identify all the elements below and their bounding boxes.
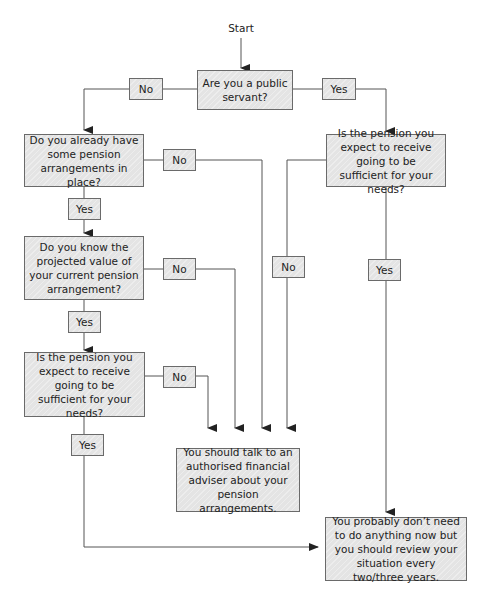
node-public-servant: Are you a public servant? [197,70,293,110]
edge-label-know-yes: Yes [68,311,101,333]
node-have-arrangements: Do you already have some pension arrange… [24,134,144,187]
edge-label-public-no: No [129,78,163,100]
node-outcome-adviser: You should talk to an authorised financi… [176,448,300,512]
node-sufficient-right: Is the pension you expect to receive goi… [326,134,446,187]
edge-label-know-no: No [163,258,196,280]
node-outcome-review: You probably don’t need to do anything n… [325,517,467,581]
start-label: Start [221,22,261,34]
edge-label-suff-left-yes: Yes [71,434,104,456]
edge-label-public-yes: Yes [322,78,356,100]
edge-label-have-yes: Yes [68,198,101,220]
edge-label-suff-left-no: No [163,366,196,388]
flowchart: Start Are you a public servant? No Yes D… [0,0,491,602]
edge-label-have-no: No [163,149,196,171]
node-know-projected: Do you know the projected value of your … [24,236,144,300]
node-sufficient-left: Is the pension you expect to receive goi… [24,352,145,417]
edge-label-suff-right-no: No [272,256,305,278]
edge-label-suff-right-yes: Yes [368,259,401,281]
